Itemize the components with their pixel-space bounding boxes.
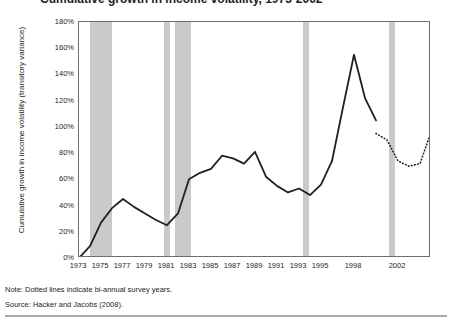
y-tick-label: 60%	[40, 174, 74, 183]
x-tick-label: 1995	[312, 261, 329, 270]
y-tick-label: 120%	[40, 95, 74, 104]
page-title: Cumulative growth in income volatility, …	[40, 0, 323, 6]
x-tick-label: 1983	[180, 261, 197, 270]
x-tick-label: 1987	[224, 261, 241, 270]
x-tick-label: 1989	[246, 261, 263, 270]
series-line-dotted	[376, 132, 430, 166]
y-tick-label: 40%	[40, 200, 74, 209]
x-tick-label: 1985	[202, 261, 219, 270]
line-chart-svg	[79, 22, 430, 257]
x-tick-label: 1981	[158, 261, 175, 270]
series-line-solid	[79, 152, 332, 257]
chart-source: Source: Hacker and Jacobs (2008).	[5, 300, 123, 309]
y-tick-label: 20%	[40, 226, 74, 235]
chart-note: Note: Dotted lines indicate bi-annual su…	[5, 285, 172, 294]
y-tick-label: 180%	[40, 17, 74, 26]
series-line-solid	[332, 55, 376, 161]
x-tick-label: 1998	[345, 261, 362, 270]
y-tick-label: 80%	[40, 148, 74, 157]
x-tick-label: 1973	[70, 261, 87, 270]
y-tick-label: 100%	[40, 121, 74, 130]
y-tick-label: 160%	[40, 43, 74, 52]
x-tick-label: 1991	[268, 261, 285, 270]
y-tick-label: 140%	[40, 69, 74, 78]
x-tick-label: 2002	[389, 261, 406, 270]
x-tick-label: 1979	[136, 261, 153, 270]
x-tick-label: 1975	[92, 261, 109, 270]
series-layer	[79, 22, 430, 257]
x-axis-ticks: 1973197519771979198119831985198719891991…	[78, 261, 430, 275]
chart-title-strip: Cumulative growth in income volatility, …	[0, 0, 452, 13]
plot-area	[78, 21, 430, 257]
figure-container: Cumulative growth in income volatility, …	[0, 0, 452, 319]
y-axis-label: Cumulative growth in income volatility (…	[17, 23, 27, 238]
x-tick-label: 1977	[114, 261, 131, 270]
x-tick-label: 1993	[290, 261, 307, 270]
footer-divider	[5, 315, 447, 317]
y-axis-ticks: 0%20%40%60%80%100%120%140%160%180%	[38, 21, 74, 257]
